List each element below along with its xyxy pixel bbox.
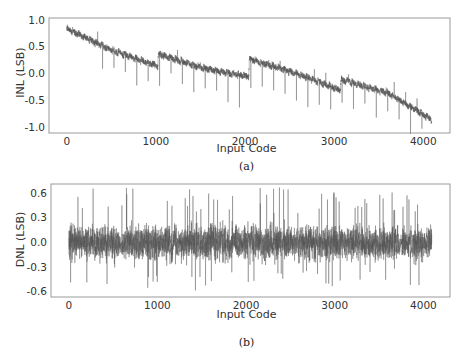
data-line — [69, 188, 432, 291]
x-tick-label: 3000 — [314, 135, 354, 147]
x-tick-label: 0 — [47, 135, 87, 147]
x-tick-label: 2000 — [226, 299, 266, 311]
y-tick-label: 0.0 — [15, 236, 47, 248]
plot-frame — [49, 18, 450, 133]
x-tick-label: 0 — [49, 299, 89, 311]
dnl-plot — [0, 177, 461, 354]
dnl-caption: (b) — [0, 336, 461, 349]
y-tick-label: 0.6 — [15, 187, 47, 199]
x-tick-label: 4000 — [403, 299, 443, 311]
y-tick-label: -1.0 — [13, 121, 45, 133]
y-tick-label: -0.6 — [15, 285, 47, 297]
y-tick-label: 0.5 — [13, 40, 45, 52]
inl-caption: (a) — [0, 160, 461, 173]
y-tick-label: 1.0 — [13, 14, 45, 26]
x-tick-label: 1000 — [137, 299, 177, 311]
dnl-chart-panel: DNL (LSB) Input Code (b) 010002000300040… — [0, 177, 461, 354]
y-tick-label: -0.5 — [13, 94, 45, 106]
data-line — [67, 25, 432, 134]
y-tick-label: 0.0 — [13, 67, 45, 79]
x-tick-label: 2000 — [225, 135, 265, 147]
inl-chart-panel: INL (LSB) Input Code (a) 010002000300040… — [0, 0, 461, 177]
y-tick-label: -0.3 — [15, 261, 47, 273]
x-tick-label: 4000 — [403, 135, 443, 147]
x-tick-label: 3000 — [315, 299, 355, 311]
y-tick-label: 0.3 — [15, 211, 47, 223]
x-tick-label: 1000 — [136, 135, 176, 147]
